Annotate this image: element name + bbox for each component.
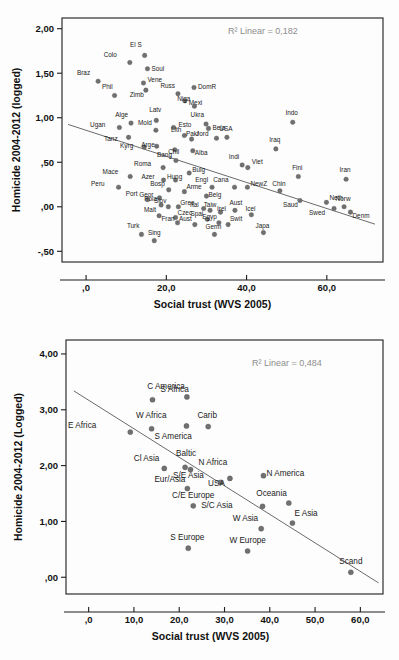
data-point (261, 473, 266, 478)
data-point (192, 104, 197, 109)
y-tick-label: ,50 (41, 157, 54, 168)
data-point-label: E Asia (294, 509, 318, 518)
data-point-label: Belg (208, 191, 221, 199)
data-point-label: Aust (179, 215, 192, 222)
data-point (154, 144, 159, 149)
data-point (154, 128, 159, 133)
data-point (193, 222, 198, 227)
y-tick-label: -,50 (38, 246, 54, 257)
x-tick-label: ,0 (85, 614, 93, 625)
y-tick-label: 1,00 (36, 112, 55, 123)
data-point (278, 188, 283, 193)
data-point (142, 53, 147, 58)
data-point-label: Hung (167, 173, 183, 181)
x-tick-label: 20,0 (170, 614, 189, 625)
x-axis-title: Social trust (WVS 2005) (154, 298, 271, 310)
data-point (260, 504, 265, 509)
figure-page: -,50,00,501,001,502,00,020,040,060,0Soci… (0, 0, 399, 660)
data-point (245, 548, 250, 553)
data-point (332, 206, 337, 211)
data-point-label: W Europe (229, 536, 266, 545)
data-point-label: N Africa (199, 458, 228, 467)
x-tick-label: 40,0 (237, 282, 256, 293)
data-point-label: Aust (230, 199, 243, 206)
data-point-label: Icel (245, 205, 255, 212)
data-point-label: NewZ (250, 180, 267, 187)
data-point-label: Eur/Asia (154, 475, 185, 484)
data-point (145, 66, 150, 71)
data-point (129, 121, 134, 126)
data-point (192, 85, 197, 90)
data-point-label: USA (219, 125, 233, 132)
data-point (290, 120, 295, 125)
data-point (212, 232, 217, 237)
data-point-label: DomR (198, 83, 216, 90)
data-point-label: Bosp (150, 180, 165, 188)
data-point (274, 147, 279, 152)
data-point-label: Viet (252, 158, 263, 165)
x-tick-label: 10,0 (125, 614, 144, 625)
data-point-label: Bang (157, 151, 172, 159)
y-axis-title: Homicide 2004-2012 (Logged) (12, 393, 24, 541)
scatter-chart-countries-svg: -,50,00,501,001,502,00,020,040,060,0Soci… (0, 0, 399, 330)
data-point (139, 232, 144, 237)
data-point (227, 476, 232, 481)
data-point (324, 200, 329, 205)
data-point-label: S Europe (170, 533, 205, 542)
data-point (214, 136, 219, 141)
data-point (245, 165, 250, 170)
x-axis-title: Social trust (WVS 2005) (152, 630, 269, 642)
data-point-label: USA (208, 479, 225, 488)
data-point-label: Denm (352, 212, 369, 219)
data-point (259, 526, 264, 531)
data-point (149, 426, 154, 431)
data-point-label: Fran (161, 215, 175, 222)
data-point-label: Cana (213, 176, 229, 183)
data-point-label: Mold (138, 119, 152, 126)
data-point (245, 185, 250, 190)
data-point-label: Mace (103, 168, 119, 175)
data-point-label: El S (130, 41, 142, 48)
data-point-label: Ukra (191, 111, 205, 118)
x-tick-label: 60,0 (318, 282, 337, 293)
data-point-label: Irel (217, 205, 226, 212)
data-point (286, 500, 291, 505)
data-point-label: Iran (340, 166, 351, 173)
data-point-label: Soul (151, 65, 164, 72)
data-point (232, 185, 237, 190)
data-point-label: Swit (230, 215, 242, 222)
data-point-label: Ugan (90, 121, 106, 129)
data-point (162, 466, 167, 471)
data-point (290, 521, 295, 526)
y-tick-label: ,00 (45, 572, 58, 583)
data-point-label: Saud (283, 201, 298, 208)
x-tick-label: 60,0 (351, 614, 370, 625)
data-point-label: Colo (104, 51, 118, 58)
data-point (344, 177, 349, 182)
data-point (161, 165, 166, 170)
y-tick-label: 1,50 (36, 68, 55, 79)
scatter-chart-countries: -,50,00,501,001,502,00,020,040,060,0Soci… (0, 0, 399, 330)
data-point-label: Iraq (269, 136, 280, 144)
data-point-label: Scand (339, 557, 363, 566)
data-point (141, 81, 146, 86)
data-point (184, 423, 189, 428)
data-point-label: Braz (77, 69, 90, 76)
data-point-label: Jord (196, 130, 209, 137)
data-point-label: Indo (285, 109, 298, 116)
data-point-label: Russ (160, 82, 175, 89)
data-point (128, 174, 133, 179)
data-point (186, 546, 191, 551)
data-point-label: W Africa (136, 411, 167, 420)
data-point-label: Cl Asia (134, 454, 160, 463)
r-squared-annotation: R² Linear = 0,182 (228, 26, 298, 36)
data-point-label: E Africa (68, 421, 97, 430)
data-point-label: Egyp (202, 213, 217, 221)
y-tick-label: 1,00 (40, 516, 59, 527)
x-tick-label: 20,0 (157, 282, 176, 293)
data-point-label: Ital (190, 201, 199, 208)
data-point-label: Indi (229, 153, 239, 160)
x-tick-label: 50,0 (306, 614, 325, 625)
data-point-label: N America (266, 469, 304, 478)
data-point-label: Oceania (256, 489, 287, 498)
